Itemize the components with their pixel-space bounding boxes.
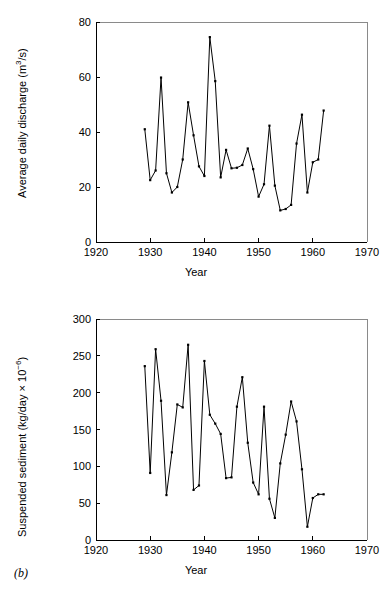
data-point-marker: [285, 434, 287, 436]
data-point-marker: [155, 169, 157, 171]
y-tick-label: 150: [73, 424, 91, 436]
y-axis-title-discharge-text: Average daily discharge (m: [16, 65, 28, 198]
data-point-marker: [176, 186, 178, 188]
data-point-marker: [192, 489, 194, 491]
data-point-marker: [317, 493, 319, 495]
data-point-marker: [290, 204, 292, 206]
x-tick-label: 1940: [192, 246, 216, 258]
data-point-marker: [165, 172, 167, 174]
x-tick-label: 1950: [246, 246, 270, 258]
series-line: [145, 345, 324, 527]
x-tick-label: 1930: [138, 544, 162, 556]
data-point-marker: [306, 191, 308, 193]
data-point-marker: [323, 109, 325, 111]
data-point-marker: [182, 158, 184, 160]
data-point-marker: [258, 196, 260, 198]
data-point-marker: [149, 179, 151, 181]
x-tick-label: 1970: [355, 246, 379, 258]
data-point-marker: [312, 161, 314, 163]
data-point-marker: [301, 114, 303, 116]
data-point-marker: [209, 36, 211, 38]
x-tick-label: 1920: [84, 544, 108, 556]
data-point-marker: [306, 526, 308, 528]
data-point-marker: [230, 167, 232, 169]
x-tick-label: 1960: [301, 246, 325, 258]
data-point-marker: [165, 494, 167, 496]
x-tick-label: 1970: [355, 544, 379, 556]
y-tick-label: 60: [79, 71, 91, 83]
data-point-marker: [268, 498, 270, 500]
data-point-marker: [295, 142, 297, 144]
data-point-marker: [230, 476, 232, 478]
data-point-marker: [144, 365, 146, 367]
y-axis-title-discharge-tail: /s): [16, 48, 28, 60]
data-point-marker: [198, 165, 200, 167]
figure-container: 020406080192019301940195019601970 Year A…: [0, 0, 392, 593]
data-point-marker: [198, 484, 200, 486]
data-point-marker: [160, 400, 162, 402]
data-point-marker: [241, 376, 243, 378]
data-point-marker: [160, 76, 162, 78]
x-tick-label: 1960: [301, 544, 325, 556]
discharge-plot: 020406080192019301940195019601970: [0, 0, 392, 292]
data-point-marker: [225, 149, 227, 151]
data-point-marker: [220, 433, 222, 435]
y-tick-label: 200: [73, 387, 91, 399]
data-point-marker: [225, 477, 227, 479]
data-point-marker: [203, 175, 205, 177]
data-point-marker: [214, 80, 216, 82]
data-point-marker: [236, 406, 238, 408]
y-tick-label: 300: [73, 313, 91, 325]
y-axis-title-discharge-exponent: 3: [14, 60, 23, 64]
y-axis-title-sediment-exponent: −6: [14, 361, 23, 370]
data-point-marker: [187, 101, 189, 103]
data-point-marker: [176, 403, 178, 405]
data-point-marker: [247, 147, 249, 149]
data-point-marker: [268, 125, 270, 127]
data-point-marker: [263, 183, 265, 185]
data-point-marker: [274, 185, 276, 187]
data-point-marker: [279, 462, 281, 464]
y-tick-label: 40: [79, 126, 91, 138]
y-tick-label: 50: [79, 497, 91, 509]
data-point-marker: [323, 493, 325, 495]
data-point-marker: [285, 208, 287, 210]
data-point-marker: [274, 517, 276, 519]
data-point-marker: [149, 472, 151, 474]
y-tick-label: 100: [73, 460, 91, 472]
y-axis-title-sediment-tail: ): [16, 357, 28, 361]
y-tick-label: 20: [79, 181, 91, 193]
data-point-marker: [301, 468, 303, 470]
data-point-marker: [171, 191, 173, 193]
data-point-marker: [192, 134, 194, 136]
data-point-marker: [252, 168, 254, 170]
sediment-plot: 0501001502002503001920193019401950196019…: [0, 292, 392, 593]
chart-panel-discharge: 020406080192019301940195019601970 Year A…: [0, 0, 392, 292]
chart-panel-sediment: 0501001502002503001920193019401950196019…: [0, 292, 392, 593]
data-point-marker: [209, 414, 211, 416]
x-tick-label: 1920: [84, 246, 108, 258]
data-point-marker: [220, 176, 222, 178]
data-point-marker: [247, 442, 249, 444]
x-axis-title-sediment: Year: [0, 564, 392, 576]
data-point-marker: [236, 167, 238, 169]
data-point-marker: [171, 451, 173, 453]
data-point-marker: [155, 348, 157, 350]
x-tick-label: 1940: [192, 544, 216, 556]
y-axis-title-sediment: Suspended sediment (kg/day × 10−6): [14, 357, 28, 537]
panel-label-b: (b): [14, 566, 28, 581]
data-point-marker: [317, 158, 319, 160]
data-point-marker: [241, 164, 243, 166]
data-point-marker: [203, 360, 205, 362]
data-point-marker: [258, 493, 260, 495]
y-axis-title-discharge: Average daily discharge (m3/s): [14, 48, 28, 198]
series-line: [145, 37, 324, 210]
x-tick-label: 1930: [138, 246, 162, 258]
x-tick-label: 1950: [246, 544, 270, 556]
y-tick-label: 250: [73, 350, 91, 362]
data-point-marker: [252, 481, 254, 483]
data-point-marker: [214, 423, 216, 425]
data-point-marker: [182, 406, 184, 408]
data-point-marker: [144, 128, 146, 130]
x-axis-title-discharge: Year: [0, 266, 392, 278]
